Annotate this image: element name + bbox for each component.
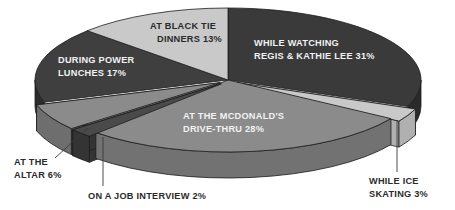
callout-label-job-interview: ON A JOB INTERVIEW 2% <box>88 191 206 201</box>
slice-label-power-lunches-line1: DURING POWER <box>58 55 135 65</box>
pie-chart-figure: WHILE WATCHING REGIS & KATHIE LEE 31%WHI… <box>0 0 455 210</box>
callout-label-altar: AT THE ALTAR 6% <box>14 157 62 180</box>
callout-label-altar-line1: AT THE <box>14 157 48 167</box>
slice-label-black-tie-line2: DINNERS 13% <box>157 34 222 44</box>
slice-label-black-tie-line1: AT BLACK TIE <box>150 21 216 31</box>
slice-label-mcdonalds-line1: AT THE MCDONALD'S <box>183 111 284 121</box>
slice-label-mcdonalds-line2: DRIVE-THRU 28% <box>183 124 264 134</box>
slice-label-power-lunches-line2: LUNCHES 17% <box>58 68 126 78</box>
slice-label-regis-line2: REGIS & KATHIE LEE 31% <box>254 51 375 61</box>
pie-chart-svg: WHILE WATCHING REGIS & KATHIE LEE 31%WHI… <box>0 0 455 210</box>
slice-label-regis-line1: WHILE WATCHING <box>254 38 339 48</box>
callout-label-ice-skating: WHILE ICE SKATING 3% <box>369 176 428 199</box>
callout-label-job-interview-line1: ON A JOB INTERVIEW 2% <box>88 191 206 201</box>
callout-label-altar-line2: ALTAR 6% <box>14 170 62 180</box>
callout-label-ice-skating-line2: SKATING 3% <box>369 189 428 199</box>
callout-label-ice-skating-line1: WHILE ICE <box>369 176 419 186</box>
